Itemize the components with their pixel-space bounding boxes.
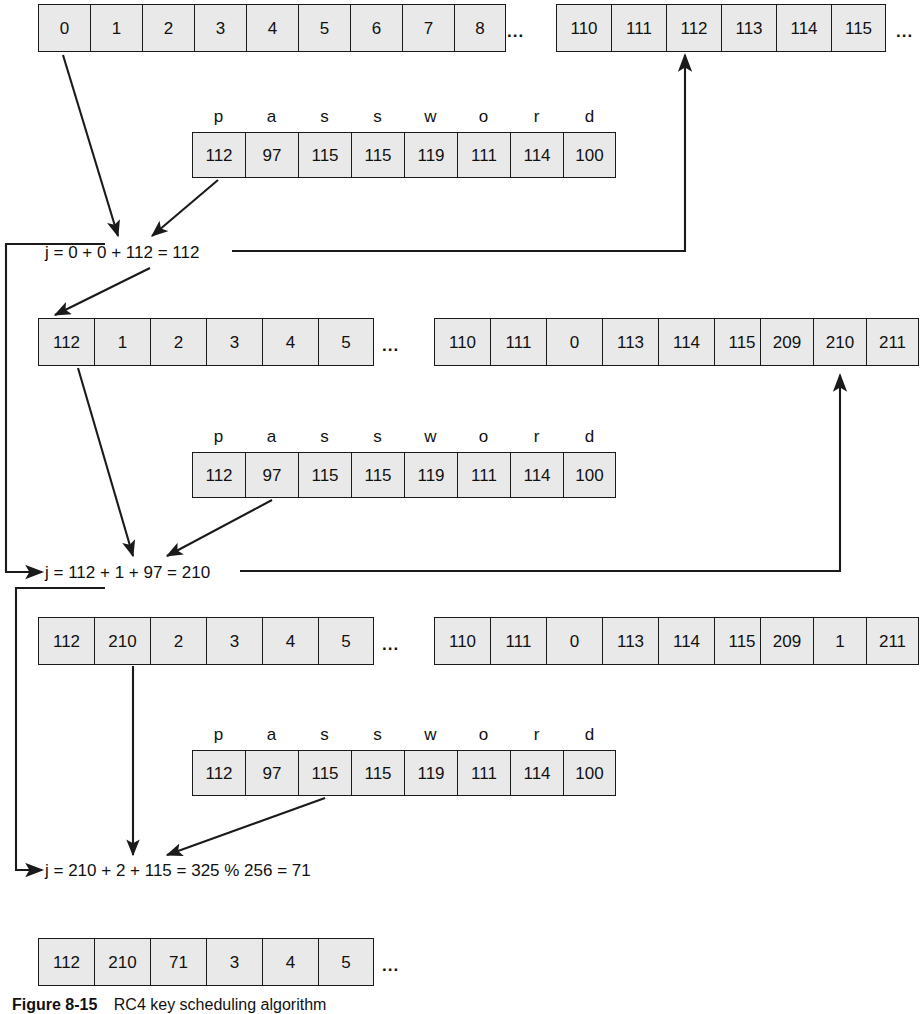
password-2-cell: 115: [351, 452, 404, 498]
password-1-cell: 115: [351, 132, 404, 178]
ellipsis-row1: ...: [382, 336, 399, 356]
state-step1-right-cell: 209: [760, 318, 813, 366]
figure-caption-text: RC4 key scheduling algorithm: [114, 996, 327, 1013]
state-array-step2-left: 1122102345: [38, 617, 374, 665]
password-1-letter: r: [510, 105, 563, 127]
password-1-letter: s: [351, 105, 404, 127]
state-step2-mid-cell: 114: [658, 617, 714, 665]
state-step1-mid-cell: 114: [658, 318, 714, 366]
password-3-letter: s: [351, 723, 404, 745]
password-3-cell: 111: [457, 750, 510, 796]
password-2-letter: o: [457, 425, 510, 447]
password-2-cell: 111: [457, 452, 510, 498]
state-step2-mid-cell: 110: [434, 617, 490, 665]
password-2-letter: p: [192, 425, 245, 447]
ellipsis-row0-right: ...: [896, 22, 913, 42]
state-step2-mid-cell: 0: [546, 617, 602, 665]
state-step1-mid-cell: 113: [602, 318, 658, 366]
password-1-cell: 119: [404, 132, 457, 178]
state-step1-left-cell: 1: [94, 318, 150, 366]
password-1-letter: p: [192, 105, 245, 127]
state-array-step2-right: 2091211: [760, 617, 919, 665]
state-initial-left-cell: 4: [246, 4, 298, 52]
figure-caption: Figure 8-15 RC4 key scheduling algorithm: [12, 996, 326, 1014]
state-initial-left-cell: 3: [194, 4, 246, 52]
password-letters-3: password: [192, 723, 616, 745]
state-step2-right-cell: 1: [813, 617, 866, 665]
password-3-cell: 119: [404, 750, 457, 796]
rc4-ksa-diagram: 012345678 ... 110111112113114115 ... pas…: [0, 0, 921, 1014]
arrow-pw3-to-j3: [167, 798, 325, 855]
formula-j1: j = 0 + 0 + 112 = 112: [45, 243, 199, 263]
state-final-cell: 5: [318, 938, 374, 986]
password-3-letter: d: [563, 723, 616, 745]
arrow-state0-to-j1: [63, 55, 118, 236]
state-final-cell: 112: [38, 938, 94, 986]
state-initial-left-cell: 1: [90, 4, 142, 52]
password-letters-1: password: [192, 105, 616, 127]
state-step2-left-cell: 5: [318, 617, 374, 665]
password-2-letter: r: [510, 425, 563, 447]
state-initial-left-cell: 6: [350, 4, 402, 52]
arrow-pw1-to-j1: [152, 180, 218, 236]
state-final-cell: 210: [94, 938, 150, 986]
password-1-letter: o: [457, 105, 510, 127]
state-array-initial-right: 110111112113114115: [556, 4, 886, 52]
password-2-letter: s: [298, 425, 351, 447]
password-bytes-3: 11297115115119111114100: [192, 750, 616, 796]
password-1-letter: s: [298, 105, 351, 127]
state-step2-mid-cell: 113: [602, 617, 658, 665]
password-bytes-2: 11297115115119111114100: [192, 452, 616, 498]
password-3-cell: 97: [245, 750, 298, 796]
state-initial-left-cell: 5: [298, 4, 350, 52]
password-3-cell: 115: [298, 750, 351, 796]
password-3-letter: w: [404, 723, 457, 745]
password-1-cell: 114: [510, 132, 563, 178]
password-3-letter: r: [510, 723, 563, 745]
password-1-cell: 115: [298, 132, 351, 178]
password-1-cell: 97: [245, 132, 298, 178]
state-step1-right-cell: 211: [866, 318, 919, 366]
state-initial-right-cell: 114: [776, 4, 831, 52]
ellipsis-row0-left: ...: [507, 22, 524, 42]
arrow-j1-loop-to-j2: [6, 244, 105, 572]
password-2-cell: 112: [192, 452, 245, 498]
password-2-letter: s: [351, 425, 404, 447]
password-3-cell: 114: [510, 750, 563, 796]
state-array-step1-left: 11212345: [38, 318, 374, 366]
password-3-letter: a: [245, 723, 298, 745]
password-1-cell: 112: [192, 132, 245, 178]
ellipsis-row2: ...: [382, 635, 399, 655]
password-1-letter: w: [404, 105, 457, 127]
state-step2-left-cell: 112: [38, 617, 94, 665]
password-3-cell: 112: [192, 750, 245, 796]
password-2-cell: 114: [510, 452, 563, 498]
state-step1-left-cell: 4: [262, 318, 318, 366]
state-array-initial-left: 012345678: [38, 4, 506, 52]
password-2-cell: 115: [298, 452, 351, 498]
state-step1-left-cell: 5: [318, 318, 374, 366]
state-step2-left-cell: 2: [150, 617, 206, 665]
password-2-cell: 100: [563, 452, 616, 498]
state-step1-left-cell: 3: [206, 318, 262, 366]
state-step2-right-cell: 209: [760, 617, 813, 665]
state-final-cell: 3: [206, 938, 262, 986]
state-step1-mid-cell: 111: [490, 318, 546, 366]
state-initial-right-cell: 110: [556, 4, 611, 52]
state-step1-mid-cell: 0: [546, 318, 602, 366]
state-final-cell: 4: [262, 938, 318, 986]
state-initial-left-cell: 7: [402, 4, 454, 52]
state-initial-right-cell: 115: [831, 4, 886, 52]
state-step2-left-cell: 210: [94, 617, 150, 665]
password-3-letter: p: [192, 723, 245, 745]
password-3-cell: 100: [563, 750, 616, 796]
password-1-letter: d: [563, 105, 616, 127]
state-step1-right-cell: 210: [813, 318, 866, 366]
state-array-step2-mid: 1101110113114115: [434, 617, 770, 665]
state-array-step1-mid: 1101110113114115: [434, 318, 770, 366]
state-step1-left-cell: 112: [38, 318, 94, 366]
password-3-letter: o: [457, 723, 510, 745]
state-initial-left-cell: 0: [38, 4, 90, 52]
state-array-final: 11221071345: [38, 938, 374, 986]
password-bytes-1: 11297115115119111114100: [192, 132, 616, 178]
